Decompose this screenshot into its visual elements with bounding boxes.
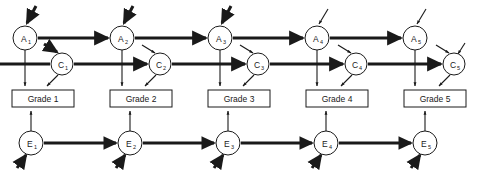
node-e1-label: E <box>27 139 33 149</box>
node-c1-label: C <box>58 60 64 70</box>
node-e3-label: E <box>224 139 230 149</box>
edge-a4-c4 <box>338 45 351 53</box>
edge-a5-c5 <box>436 45 449 53</box>
edge-c5-grade5 <box>439 75 450 86</box>
grade-box-label-2: Grade 2 <box>126 94 157 104</box>
node-e3-sub: 3 <box>231 144 234 150</box>
a-to-c-edges <box>44 44 449 53</box>
edge-into-e1 <box>17 155 26 168</box>
node-e4-label: E <box>322 139 328 149</box>
edge-a3-c3 <box>240 45 253 53</box>
edge-into-e2 <box>116 155 125 168</box>
edge-into-e3 <box>214 155 223 168</box>
e-incoming-edges <box>17 155 420 168</box>
node-e2-sub: 2 <box>133 144 136 150</box>
grade-boxes: Grade 1 Grade 2 Grade 3 Grade 4 Grade 5 <box>12 90 466 107</box>
edge-c1-grade1 <box>47 75 58 86</box>
node-a3-label: A <box>216 34 222 44</box>
node-a5-sub: 5 <box>418 39 421 45</box>
a-incoming-edges <box>27 6 426 24</box>
diagram-canvas: Grade 1 Grade 2 Grade 3 Grade 4 Grade 5 … <box>0 0 479 179</box>
c-to-grade-edges <box>47 75 450 86</box>
node-c3-sub: 3 <box>261 65 264 71</box>
grade-box-label-3: Grade 3 <box>224 94 255 104</box>
node-a3-sub: 3 <box>223 39 226 45</box>
node-a4-label: A <box>313 34 319 44</box>
edge-into-e4 <box>312 155 321 168</box>
edge-into-a5 <box>417 9 426 24</box>
edge-into-a2 <box>124 6 133 23</box>
edge-into-a1 <box>27 6 36 23</box>
edge-a2-c2 <box>142 45 155 53</box>
node-a2-sub: 2 <box>125 39 128 45</box>
node-a1-label: A <box>21 34 27 44</box>
node-c2-sub: 2 <box>163 65 166 71</box>
grade-box-label-5: Grade 5 <box>420 94 451 104</box>
edge-c4-grade4 <box>341 75 352 86</box>
node-a1-sub: 1 <box>28 39 31 45</box>
node-c1-sub: 1 <box>65 65 68 71</box>
edge-c2-grade2 <box>145 75 156 86</box>
grade-box-label-4: Grade 4 <box>322 94 353 104</box>
edge-into-e5 <box>411 155 420 168</box>
node-e4-sub: 4 <box>329 144 332 150</box>
edge-into-c5 <box>458 43 465 54</box>
e-to-grade-edges <box>31 111 425 131</box>
node-a4-sub: 4 <box>320 39 323 45</box>
edge-into-a4 <box>319 9 328 24</box>
edge-c3-grade3 <box>243 75 254 86</box>
node-e1-sub: 1 <box>34 144 37 150</box>
path-diagram: Grade 1 Grade 2 Grade 3 Grade 4 Grade 5 … <box>0 0 479 179</box>
node-c5-sub: 5 <box>457 65 460 71</box>
edge-into-a3 <box>222 6 231 23</box>
node-c3-label: C <box>254 60 260 70</box>
node-e5-label: E <box>421 139 427 149</box>
node-e2-label: E <box>126 139 132 149</box>
grade-box-label-1: Grade 1 <box>28 94 59 104</box>
node-c5-label: C <box>450 60 456 70</box>
node-a2-label: A <box>118 34 124 44</box>
node-c4-label: C <box>352 60 358 70</box>
edge-a1-c1 <box>44 44 57 52</box>
c-incoming-edges <box>458 43 465 54</box>
node-a5-label: A <box>411 34 417 44</box>
node-c4-sub: 4 <box>359 65 362 71</box>
node-e5-sub: 5 <box>428 144 431 150</box>
node-c2-label: C <box>156 60 162 70</box>
